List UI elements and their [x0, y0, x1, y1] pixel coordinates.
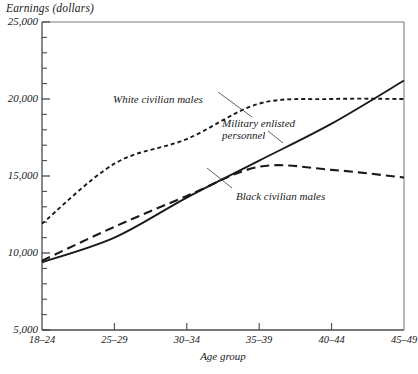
x-tick-label: 35–39	[231, 334, 287, 345]
x-axis-ticks	[114, 323, 331, 330]
chart-figure: Earnings (dollars) 5,00010,00015,00020,0…	[0, 0, 418, 374]
x-tick-label: 30–34	[159, 334, 215, 345]
series-annotation-label: Black civilian males	[236, 190, 325, 203]
x-tick-label: 18–24	[14, 334, 70, 345]
x-tick-label: 25–29	[86, 334, 142, 345]
chart-plot-area	[0, 0, 418, 374]
x-tick-label: 40–44	[304, 334, 360, 345]
y-tick-label: 20,000	[0, 92, 38, 104]
series-annotation-label: Military enlisted	[222, 117, 295, 130]
y-tick-label: 25,000	[0, 15, 38, 27]
series-annotation-label: White civilian males	[113, 93, 203, 106]
x-tick-label: 45–49	[376, 334, 418, 345]
series-annotation-label: personnel	[222, 129, 265, 142]
y-tick-label: 15,000	[0, 169, 38, 181]
annotation-leader-line	[268, 131, 283, 143]
y-axis-title: Earnings (dollars)	[6, 2, 94, 14]
x-axis-title: Age group	[163, 350, 283, 362]
series-line	[42, 165, 404, 261]
y-tick-label: 10,000	[0, 246, 38, 258]
data-series-layer	[42, 81, 404, 263]
